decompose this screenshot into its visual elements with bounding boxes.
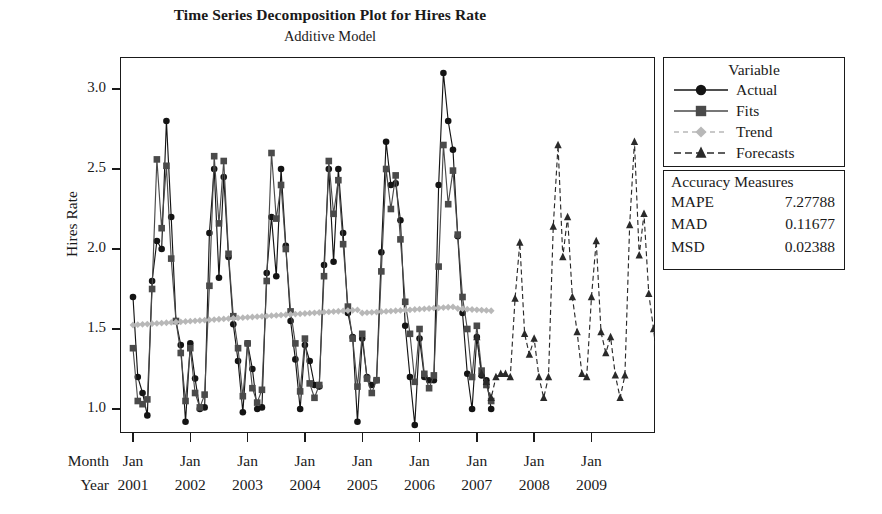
data-point xyxy=(397,217,404,224)
x-tick-mark xyxy=(190,433,191,442)
y-tick-mark xyxy=(112,408,120,409)
x-tick-mark xyxy=(419,433,420,442)
x-tick-label-month: Jan xyxy=(449,452,505,470)
x-tick-label-month: Jan xyxy=(563,452,619,470)
data-point xyxy=(488,406,495,413)
data-point xyxy=(464,326,471,333)
data-point xyxy=(426,385,433,392)
legend-item-label: Trend xyxy=(736,123,772,141)
data-point xyxy=(621,371,628,379)
data-point xyxy=(278,182,285,189)
data-point xyxy=(526,350,533,358)
data-point xyxy=(469,406,476,413)
data-point xyxy=(283,246,290,253)
data-point xyxy=(220,158,227,165)
data-point xyxy=(383,139,390,146)
legend-item-trend[interactable]: Trend xyxy=(664,121,844,142)
data-point xyxy=(431,372,438,379)
data-point xyxy=(154,156,161,163)
legend-item-label: Actual xyxy=(736,81,777,99)
data-point xyxy=(154,238,161,245)
legend-item-actual[interactable]: Actual xyxy=(664,79,844,100)
data-point xyxy=(182,419,189,426)
x-tick-label-month: Jan xyxy=(277,452,333,470)
data-point xyxy=(249,385,256,392)
data-point xyxy=(530,334,537,342)
data-point xyxy=(201,391,208,398)
data-point xyxy=(216,275,223,282)
data-point xyxy=(244,340,251,347)
data-point xyxy=(168,255,175,262)
data-point xyxy=(612,371,619,379)
x-tick-label-year: 2007 xyxy=(449,476,505,494)
data-point xyxy=(311,395,318,402)
data-point xyxy=(416,335,423,342)
data-point xyxy=(316,382,323,389)
data-point xyxy=(378,249,385,256)
data-point xyxy=(407,331,414,338)
data-point xyxy=(340,241,347,248)
data-point xyxy=(259,387,266,394)
accuracy-value: 7.27788 xyxy=(745,191,844,213)
y-tick-label: 3.0 xyxy=(58,80,106,95)
data-point xyxy=(388,206,395,213)
data-point xyxy=(640,209,647,217)
data-point xyxy=(254,399,261,406)
data-point xyxy=(402,299,409,306)
data-point xyxy=(335,177,342,184)
data-point xyxy=(450,147,457,154)
data-point xyxy=(235,358,242,365)
x-tick-mark xyxy=(247,433,248,442)
accuracy-row: MAPE7.27788 xyxy=(664,191,844,213)
data-point xyxy=(588,293,595,301)
data-point xyxy=(354,383,361,390)
data-point xyxy=(144,412,151,419)
legend-marker-triangle-icon xyxy=(672,144,730,162)
legend-marker-square-icon xyxy=(672,102,730,120)
chart-subtitle: Additive Model xyxy=(0,28,660,45)
data-point xyxy=(636,251,643,259)
data-point xyxy=(364,375,371,382)
legend-item-label: Fits xyxy=(736,102,759,120)
accuracy-key: MSD xyxy=(671,236,745,258)
data-point xyxy=(330,211,337,218)
data-point xyxy=(211,153,218,160)
data-point xyxy=(177,350,184,357)
data-point xyxy=(569,293,576,301)
y-tick-label: 2.5 xyxy=(58,160,106,175)
data-point xyxy=(607,333,614,341)
data-point xyxy=(696,84,706,94)
data-point xyxy=(597,328,604,336)
x-tick-mark xyxy=(132,433,133,442)
legend-item-fits[interactable]: Fits xyxy=(664,100,844,121)
data-point xyxy=(235,345,242,352)
data-point xyxy=(359,331,366,338)
x-tick-label-year: 2001 xyxy=(105,476,161,494)
data-point xyxy=(440,142,447,149)
legend-title: Variable xyxy=(664,61,844,79)
y-tick-mark xyxy=(112,328,120,329)
series-line xyxy=(477,137,655,398)
data-point xyxy=(435,263,442,270)
data-point xyxy=(593,237,600,245)
data-point xyxy=(177,342,184,349)
data-point xyxy=(330,259,337,266)
data-point xyxy=(378,268,385,275)
data-point xyxy=(335,166,342,173)
data-point xyxy=(521,329,528,337)
accuracy-measures-box: Accuracy Measures MAPE7.27788MAD0.11677M… xyxy=(663,170,845,270)
y-tick-mark xyxy=(112,168,120,169)
data-point xyxy=(695,126,706,137)
data-point xyxy=(469,374,476,381)
y-tick-label: 2.0 xyxy=(58,240,106,255)
data-point xyxy=(158,246,165,253)
data-point xyxy=(564,213,571,221)
data-point xyxy=(602,349,609,357)
data-point xyxy=(578,369,585,377)
legend-item-forecasts[interactable]: Forecasts xyxy=(664,142,844,163)
data-point xyxy=(696,146,707,157)
data-point xyxy=(192,390,199,397)
legend-item-label: Forecasts xyxy=(736,144,795,162)
legend-marker-diamond-icon xyxy=(672,123,730,141)
x-tick-mark xyxy=(476,433,477,442)
